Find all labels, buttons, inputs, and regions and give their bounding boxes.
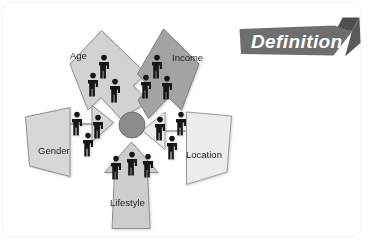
definition-banner[interactable]: Definition [0,0,382,248]
slide-canvas: Age Income Gender [0,0,382,248]
definition-banner-label: Definition [251,31,343,52]
